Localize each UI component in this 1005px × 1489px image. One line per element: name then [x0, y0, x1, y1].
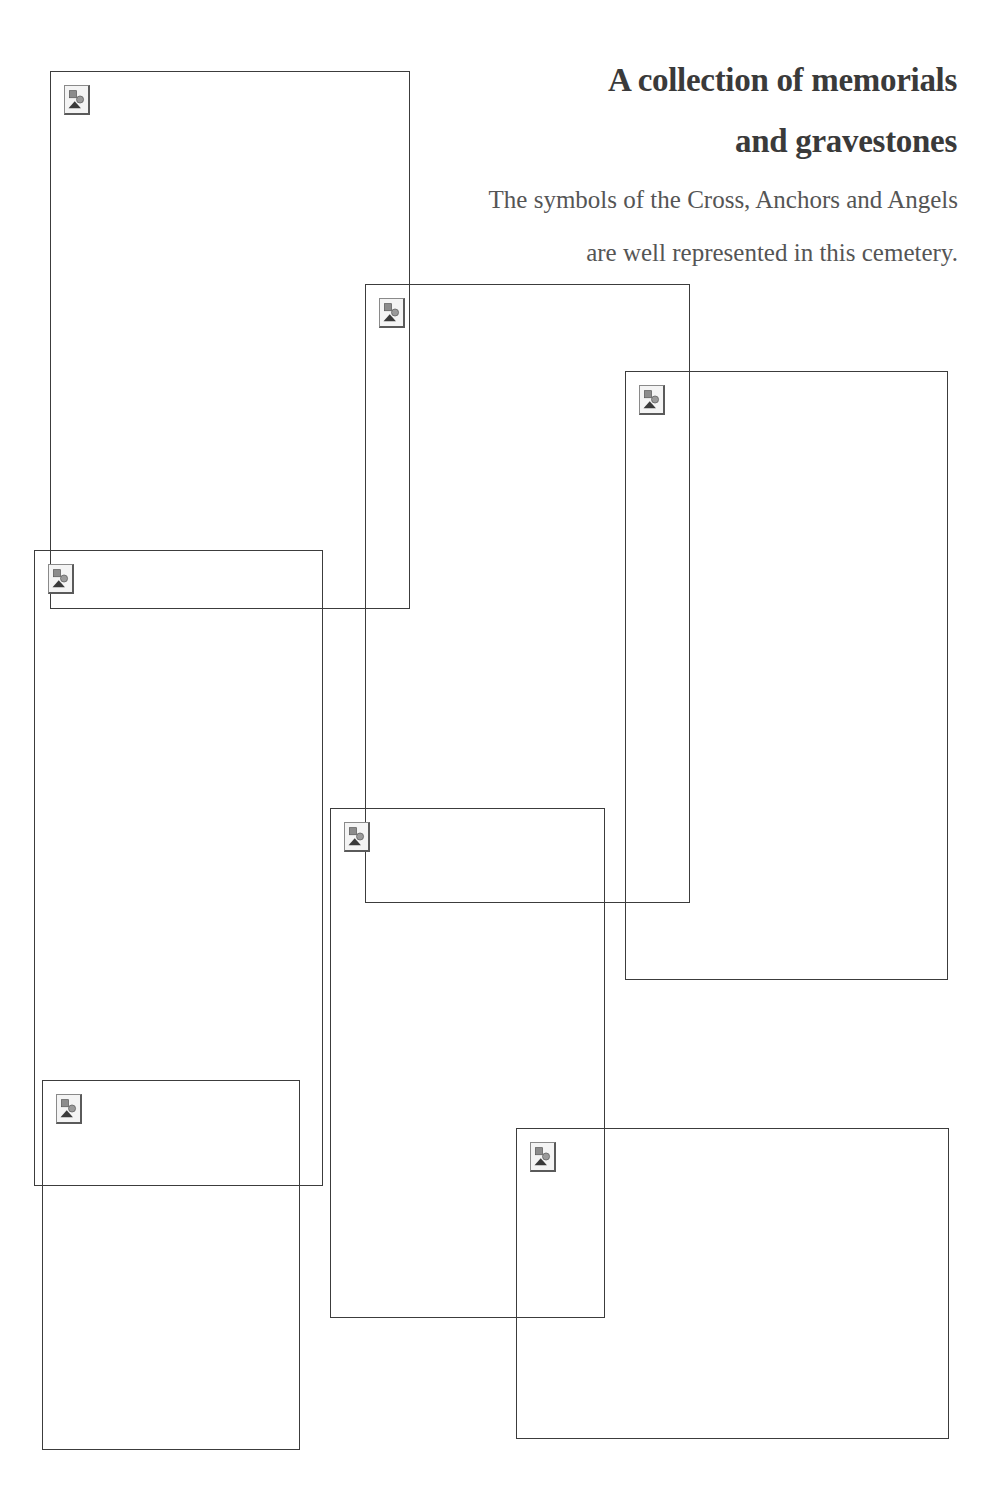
broken-image-icon — [639, 385, 665, 415]
broken-image-icon — [344, 822, 370, 852]
broken-image-icon — [379, 298, 405, 328]
image-placeholder-1[interactable] — [50, 71, 410, 609]
page-title-line-1: A collection of memorials — [608, 64, 957, 97]
broken-image-icon — [48, 564, 74, 594]
page-title-line-2: and gravestones — [735, 125, 957, 158]
image-placeholder-7[interactable] — [516, 1128, 949, 1439]
broken-image-icon — [64, 85, 90, 115]
image-placeholder-6[interactable] — [42, 1080, 300, 1450]
image-placeholder-3[interactable] — [625, 371, 948, 980]
subtitle-line-2: are well represented in this cemetery. — [586, 240, 958, 265]
broken-image-icon — [56, 1094, 82, 1124]
broken-image-icon — [530, 1142, 556, 1172]
subtitle-line-1: The symbols of the Cross, Anchors and An… — [489, 187, 958, 212]
